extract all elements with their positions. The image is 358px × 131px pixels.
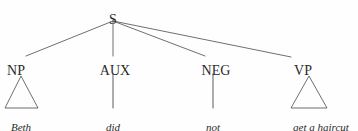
branch-s-to-neg [113,21,205,56]
tree-terminal-not: not [206,122,220,131]
tree-node-np: NP [7,64,25,78]
tree-terminal-did: did [106,122,120,131]
tree-node-s: S [109,13,117,27]
branch-lines [26,21,291,57]
tree-terminal-get-a-haircut: get a haircut [293,122,349,131]
triangle-np [5,76,38,108]
branch-s-to-np [26,21,113,56]
triangle-vp [291,76,327,108]
tree-node-neg: NEG [202,64,231,78]
terminal-stem-lines [113,74,213,108]
tree-node-vp: VP [294,64,312,78]
tree-terminal-beth: Beth [11,122,31,131]
tree-node-aux: AUX [100,64,130,78]
branch-s-to-vp [113,21,291,57]
syntax-tree-figure: S NP AUX NEG VP Beth did not get a hairc… [0,0,358,131]
phrase-triangles [5,76,327,108]
